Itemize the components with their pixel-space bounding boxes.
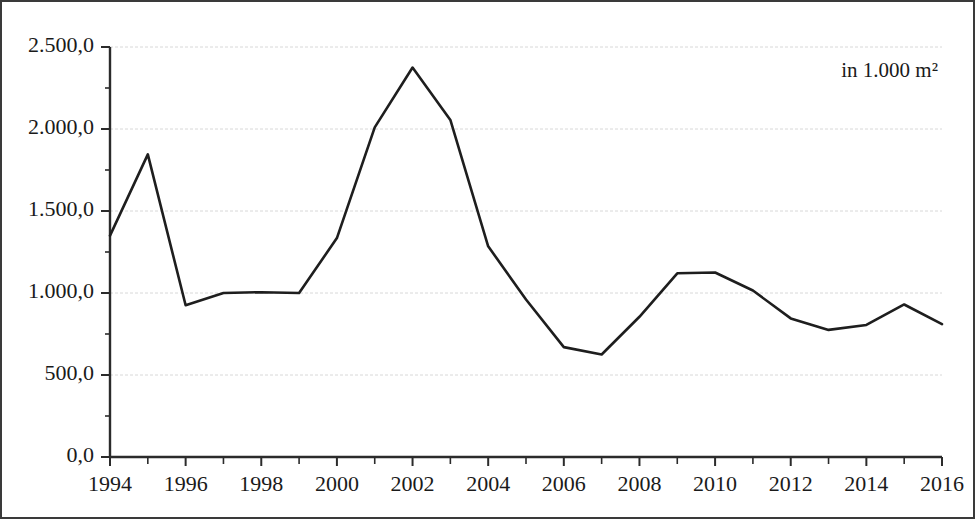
x-tick-label: 1996: [164, 471, 208, 496]
unit-annotation: in 1.000 m²: [841, 58, 938, 82]
y-tick-label: 2.500,0: [28, 32, 94, 57]
chart-figure: 2.500,02.000,01.500,01.000,0500,00,0 199…: [0, 0, 975, 519]
x-tick-label: 2016: [920, 471, 964, 496]
x-tick-label: 2008: [617, 471, 661, 496]
x-tick-labels-group: 1994199619982000200220042006200820102012…: [88, 471, 964, 496]
y-tick-label: 1.500,0: [28, 196, 94, 221]
x-tick-label: 2012: [769, 471, 813, 496]
y-tick-label: 0,0: [67, 442, 95, 467]
x-tick-label: 2000: [315, 471, 359, 496]
y-tick-labels-group: 2.500,02.000,01.500,01.000,0500,00,0: [28, 32, 94, 467]
x-tick-marks-group: [110, 457, 942, 466]
x-tick-label: 2010: [693, 471, 737, 496]
y-tick-label: 2.000,0: [28, 114, 94, 139]
line-chart: 2.500,02.000,01.500,01.000,0500,00,0 199…: [2, 2, 975, 519]
y-tick-label: 1.000,0: [28, 278, 94, 303]
x-tick-label: 1994: [88, 471, 132, 496]
x-tick-label: 1998: [239, 471, 283, 496]
x-tick-label: 2002: [391, 471, 435, 496]
x-tick-label: 2006: [542, 471, 586, 496]
y-tick-marks-group: [101, 47, 110, 457]
x-tick-label: 2014: [844, 471, 888, 496]
y-tick-label: 500,0: [45, 360, 95, 385]
x-tick-label: 2004: [466, 471, 510, 496]
